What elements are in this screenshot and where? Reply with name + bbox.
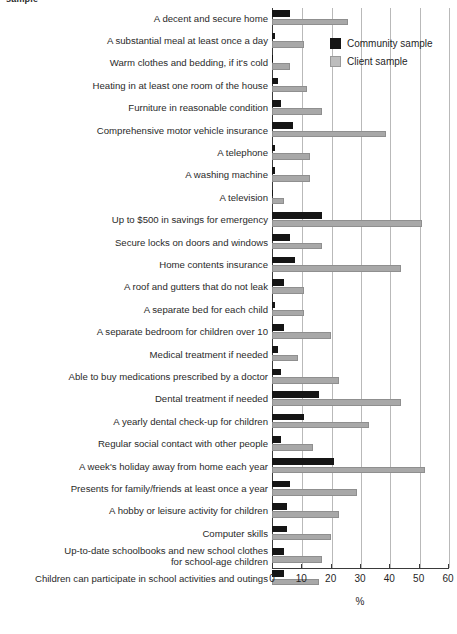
bar-community-sample xyxy=(272,324,284,331)
x-axis-title: % xyxy=(272,596,448,607)
bar-community-sample xyxy=(272,33,275,40)
bar-client-sample xyxy=(272,175,310,182)
axis-tick-label: 30 xyxy=(354,573,365,584)
bar-client-sample xyxy=(272,265,401,272)
axis-tick-label: 60 xyxy=(442,573,453,584)
chart-row: Dental treatment if needed xyxy=(0,389,457,411)
bar-group xyxy=(272,277,452,299)
bar-group xyxy=(272,142,452,164)
chart-row: Medical treatment if needed xyxy=(0,344,457,366)
bar-client-sample xyxy=(272,511,339,518)
legend-item-client: Client sample xyxy=(330,56,433,67)
bar-group xyxy=(272,411,452,433)
bar-group xyxy=(272,187,452,209)
bar-community-sample xyxy=(272,78,278,85)
bar-group xyxy=(272,254,452,276)
legend-label-community: Community sample xyxy=(347,38,433,49)
bar-client-sample xyxy=(272,355,298,362)
bar-group xyxy=(272,366,452,388)
category-label: A separate bed for each child xyxy=(4,304,268,315)
chart-row: A week's holiday away from home each yea… xyxy=(0,456,457,478)
category-label: Comprehensive motor vehicle insurance xyxy=(4,125,268,136)
chart-legend: Community sample Client sample xyxy=(330,38,433,74)
bar-client-sample xyxy=(272,377,339,384)
bar-group xyxy=(272,434,452,456)
chart-row: A washing machine xyxy=(0,165,457,187)
bar-group xyxy=(272,523,452,545)
chart-row: Heating in at least one room of the hous… xyxy=(0,75,457,97)
bar-client-sample xyxy=(272,63,290,70)
category-label: Secure locks on doors and windows xyxy=(4,237,268,248)
axis-tick xyxy=(272,564,273,569)
axis-tick-label: 0 xyxy=(269,573,275,584)
bar-community-sample xyxy=(272,167,275,174)
bar-group xyxy=(272,165,452,187)
bar-group xyxy=(272,478,452,500)
category-label: Warm clothes and bedding, if it's cold xyxy=(4,57,268,68)
axis-tick xyxy=(301,564,302,569)
bar-group xyxy=(272,389,452,411)
bar-community-sample xyxy=(272,503,287,510)
bar-client-sample xyxy=(272,422,369,429)
bar-client-sample xyxy=(272,332,331,339)
bar-client-sample xyxy=(272,489,357,496)
chart-row: Furniture in reasonable condition xyxy=(0,98,457,120)
axis-tick-label: 50 xyxy=(413,573,424,584)
bar-client-sample xyxy=(272,153,310,160)
axis-tick xyxy=(448,564,449,569)
bar-group xyxy=(272,120,452,142)
category-label: Up-to-date schoolbooks and new school cl… xyxy=(4,545,268,567)
bar-community-sample xyxy=(272,10,290,17)
bar-client-sample xyxy=(272,467,425,474)
category-label: A substantial meal at least once a day xyxy=(4,35,268,46)
bar-group xyxy=(272,75,452,97)
chart-row: Home contents insurance xyxy=(0,254,457,276)
category-label: A roof and gutters that do not leak xyxy=(4,281,268,292)
bar-community-sample xyxy=(272,302,275,309)
bar-community-sample xyxy=(272,234,290,241)
bar-community-sample xyxy=(272,279,284,286)
category-label: A decent and secure home xyxy=(4,13,268,24)
chart-row: A television xyxy=(0,187,457,209)
category-label: Up to $500 in savings for emergency xyxy=(4,214,268,225)
legend-label-client: Client sample xyxy=(347,56,408,67)
bar-community-sample xyxy=(272,548,284,555)
bar-group xyxy=(272,232,452,254)
bar-client-sample xyxy=(272,310,304,317)
bar-group xyxy=(272,546,452,568)
category-label: Furniture in reasonable condition xyxy=(4,102,268,113)
chart-row: Computer skills xyxy=(0,523,457,545)
axis-tick xyxy=(419,564,420,569)
bar-community-sample xyxy=(272,257,295,264)
category-label: Dental treatment if needed xyxy=(4,393,268,404)
bar-client-sample xyxy=(272,41,304,48)
axis-tick xyxy=(389,564,390,569)
bar-client-sample xyxy=(272,556,322,563)
category-label: Heating in at least one room of the hous… xyxy=(4,80,268,91)
bar-group xyxy=(272,501,452,523)
chart-row: A hobby or leisure activity for children xyxy=(0,501,457,523)
bar-community-sample xyxy=(272,526,287,533)
axis-tick-label: 20 xyxy=(325,573,336,584)
bar-group xyxy=(272,344,452,366)
bar-chart: A decent and secure homeA substantial me… xyxy=(0,8,457,568)
bar-community-sample xyxy=(272,145,275,152)
bar-community-sample xyxy=(272,414,304,421)
category-label: A hobby or leisure activity for children xyxy=(4,505,268,516)
bar-client-sample xyxy=(272,131,386,138)
bar-community-sample xyxy=(272,369,281,376)
chart-row: Able to buy medications prescribed by a … xyxy=(0,366,457,388)
chart-row: Up to $500 in savings for emergency xyxy=(0,210,457,232)
bar-group xyxy=(272,299,452,321)
category-label: A separate bedroom for children over 10 xyxy=(4,326,268,337)
category-label: Home contents insurance xyxy=(4,259,268,270)
bar-community-sample xyxy=(272,122,293,129)
bar-community-sample xyxy=(272,346,278,353)
bar-client-sample xyxy=(272,19,348,26)
axis-tick xyxy=(331,564,332,569)
category-label: Computer skills xyxy=(4,528,268,539)
chart-row: A decent and secure home xyxy=(0,8,457,30)
bar-client-sample xyxy=(272,108,322,115)
chart-row: Regular social contact with other people xyxy=(0,434,457,456)
bar-client-sample xyxy=(272,220,422,227)
